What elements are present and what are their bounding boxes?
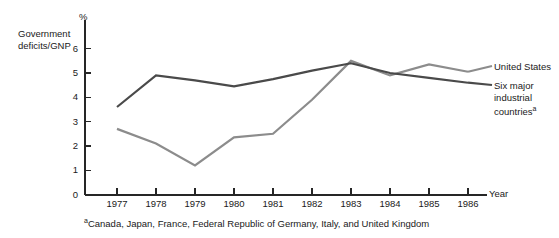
x-axis-tick-label: 1983 <box>331 198 371 209</box>
series-line-six-major-industrial-countries <box>117 63 468 107</box>
legend-item-united-states: United States <box>494 61 551 73</box>
x-axis-tick-label: 1984 <box>370 198 410 209</box>
legend-label-six-major-line1: Six major <box>494 80 534 91</box>
legend-label-six-major-line2: industrial <box>494 92 532 103</box>
x-axis-tick-label: 1978 <box>136 198 176 209</box>
legend-connector <box>468 66 492 72</box>
footnote-text: Canada, Japan, France, Federal Republic … <box>88 218 429 229</box>
x-axis-tick-label: 1986 <box>448 198 488 209</box>
legend-label-united-states: United States <box>494 61 551 72</box>
x-axis-tick-label: 1982 <box>292 198 332 209</box>
x-axis-tick-label: 1985 <box>409 198 449 209</box>
legend-label-six-major-line3: countries <box>494 106 533 117</box>
y-axis-tick-label: 1 <box>64 164 78 175</box>
legend-connector <box>468 83 492 85</box>
chart-container: Government deficits/GNP % Year 0123456 1… <box>0 0 559 238</box>
y-axis-tick-label: 5 <box>64 67 78 78</box>
data-series-group <box>117 61 468 165</box>
chart-footnote: aCanada, Japan, France, Federal Republic… <box>84 217 429 229</box>
legend-item-six-major-countries: Six major industrial countriesa <box>494 80 556 118</box>
y-axis-tick-label: 0 <box>64 189 78 200</box>
y-axis-tick-label: 4 <box>64 91 78 102</box>
legend-connector-lines <box>468 66 492 85</box>
x-axis-tick-label: 1981 <box>253 198 293 209</box>
y-axis-tick-label: 2 <box>64 140 78 151</box>
x-axis-tick-label: 1977 <box>97 198 137 209</box>
y-axis-tick-label: 6 <box>64 43 78 54</box>
x-axis-tick-label: 1979 <box>175 198 215 209</box>
legend-superscript-a: a <box>533 105 537 112</box>
x-axis-tick-label: 1980 <box>214 198 254 209</box>
y-axis-tick-label: 3 <box>64 116 78 127</box>
